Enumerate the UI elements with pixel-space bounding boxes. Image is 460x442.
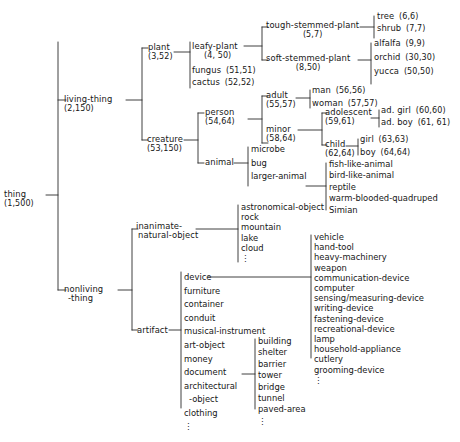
node-shrub[interactable]: shrub (7,7) bbox=[377, 24, 425, 33]
node-architectural-object-line2[interactable]: -object bbox=[184, 393, 265, 407]
node-yucca-index: (50,50) bbox=[404, 67, 434, 76]
node-man[interactable]: man (56,56) bbox=[312, 86, 366, 95]
node-astronomical-object[interactable]: astronomical-object bbox=[241, 202, 324, 212]
node-bird-like-animal[interactable]: bird-like-animal bbox=[329, 170, 438, 181]
node-fungus[interactable]: fungus (51,51) bbox=[192, 66, 256, 75]
node-device[interactable]: device bbox=[184, 271, 265, 285]
node-girl[interactable]: girl (63,63) bbox=[360, 135, 408, 144]
node-cutlery[interactable]: cutlery bbox=[314, 354, 424, 364]
node-ad-boy[interactable]: ad. boy (61, 61) bbox=[381, 118, 450, 127]
node-simian[interactable]: Simian bbox=[329, 205, 438, 216]
node-plant[interactable]: plant (3,52) bbox=[148, 43, 173, 61]
node-household-appliance[interactable]: household-appliance bbox=[314, 344, 424, 354]
node-reptile[interactable]: reptile bbox=[329, 182, 438, 193]
node-shelter[interactable]: shelter bbox=[258, 347, 306, 358]
artifact-children-list: device furniture container conduit music… bbox=[184, 271, 265, 431]
node-ad-girl[interactable]: ad. girl (60,60) bbox=[381, 106, 446, 115]
node-soft-stemmed-plant[interactable]: soft-stemmed-plant (8,50) bbox=[266, 54, 350, 72]
node-artifact-label: artifact bbox=[137, 326, 168, 335]
node-minor[interactable]: minor (58,64) bbox=[266, 125, 296, 143]
node-tough-stemmed-plant[interactable]: tough-stemmed-plant (5,7) bbox=[266, 21, 359, 39]
node-plant-index: (3,52) bbox=[148, 52, 173, 61]
node-inanimate-natural-object[interactable]: inanimate- natural-object bbox=[136, 222, 198, 240]
node-alfalfa[interactable]: alfalfa (9,9) bbox=[374, 39, 425, 48]
node-person-index: (54,64) bbox=[205, 117, 235, 126]
node-heavy-machinery[interactable]: heavy-machinery bbox=[314, 252, 424, 262]
node-leafy-plant-index: (4, 50) bbox=[192, 51, 238, 60]
node-sensing-measuring-device[interactable]: sensing/measuring-device bbox=[314, 293, 424, 303]
node-cactus[interactable]: cactus (52,52) bbox=[192, 78, 255, 87]
node-creature-index: (53,150) bbox=[147, 144, 183, 153]
node-warm-blooded-quadruped[interactable]: warm-blooded-quadruped bbox=[329, 193, 438, 204]
node-art-object[interactable]: art-object bbox=[184, 339, 265, 353]
node-alfalfa-index: (9,9) bbox=[405, 39, 424, 48]
node-fastening-device[interactable]: fastening-device bbox=[314, 314, 424, 324]
node-computer[interactable]: computer bbox=[314, 283, 424, 293]
node-tunnel[interactable]: tunnel bbox=[258, 393, 306, 404]
node-musical-instrument[interactable]: musical-instrument bbox=[184, 325, 265, 339]
larger-animal-children-list: fish-like-animal bird-like-animal reptil… bbox=[329, 159, 438, 216]
node-writing-device[interactable]: writing-device bbox=[314, 303, 424, 313]
node-man-index: (56,56) bbox=[336, 86, 366, 95]
node-minor-label: minor bbox=[266, 125, 296, 134]
node-barrier[interactable]: barrier bbox=[258, 359, 306, 370]
node-cactus-label: cactus bbox=[192, 77, 220, 87]
node-tree[interactable]: tree (6,6) bbox=[377, 12, 418, 21]
node-nonliving-thing[interactable]: nonliving -thing bbox=[64, 285, 103, 303]
device-ellipsis: ⋮ bbox=[314, 375, 424, 385]
node-living-thing-index: (2,150) bbox=[64, 104, 112, 113]
node-leafy-plant[interactable]: leafy-plant (4, 50) bbox=[192, 42, 238, 60]
node-artifact[interactable]: artifact bbox=[137, 326, 168, 335]
node-living-thing[interactable]: living-thing (2,150) bbox=[64, 95, 112, 113]
node-fungus-index: (51,51) bbox=[226, 66, 256, 75]
node-weapon[interactable]: weapon bbox=[314, 263, 424, 273]
node-living-thing-label: living-thing bbox=[64, 95, 112, 104]
node-boy-index: (64,64) bbox=[380, 148, 410, 157]
node-bug[interactable]: bug bbox=[251, 157, 307, 171]
node-money[interactable]: money bbox=[184, 353, 265, 367]
node-recreational-device[interactable]: recreational-device bbox=[314, 324, 424, 334]
node-grooming-device[interactable]: grooming-device bbox=[314, 365, 424, 375]
node-boy[interactable]: boy (64,64) bbox=[360, 148, 410, 157]
inanimate-children-list: astronomical-object rock mountain lake c… bbox=[241, 202, 324, 263]
node-creature[interactable]: creature (53,150) bbox=[147, 135, 183, 153]
node-microbe[interactable]: microbe bbox=[251, 143, 307, 157]
node-paved-area[interactable]: paved-area bbox=[258, 404, 306, 415]
node-cactus-index: (52,52) bbox=[225, 78, 255, 87]
node-mountain[interactable]: mountain bbox=[241, 222, 324, 232]
node-adolescent[interactable]: adolescent (59,61) bbox=[325, 108, 372, 126]
node-yucca[interactable]: yucca (50,50) bbox=[374, 67, 434, 76]
node-animal[interactable]: animal bbox=[205, 158, 234, 167]
node-adult[interactable]: adult (55,57) bbox=[266, 91, 296, 109]
node-architectural-object-line1[interactable]: architectural bbox=[184, 380, 265, 394]
node-lamp[interactable]: lamp bbox=[314, 334, 424, 344]
node-rock[interactable]: rock bbox=[241, 212, 324, 222]
node-ad-girl-label: ad. girl bbox=[381, 105, 411, 115]
node-communication-device[interactable]: communication-device bbox=[314, 273, 424, 283]
node-thing-index: (1,500) bbox=[4, 199, 34, 208]
node-leafy-plant-label: leafy-plant bbox=[192, 42, 238, 51]
node-container[interactable]: container bbox=[184, 298, 265, 312]
node-larger-animal[interactable]: larger-animal bbox=[251, 170, 307, 184]
node-man-label: man bbox=[312, 85, 331, 95]
node-clothing[interactable]: clothing bbox=[184, 407, 265, 421]
architectural-ellipsis: ⋮ bbox=[258, 416, 306, 426]
node-conduit[interactable]: conduit bbox=[184, 312, 265, 326]
node-tower[interactable]: tower bbox=[258, 370, 306, 381]
node-building[interactable]: building bbox=[258, 336, 306, 347]
node-vehicle[interactable]: vehicle bbox=[314, 232, 424, 242]
node-cloud[interactable]: cloud bbox=[241, 243, 324, 253]
node-bridge[interactable]: bridge bbox=[258, 382, 306, 393]
node-fish-like-animal[interactable]: fish-like-animal bbox=[329, 159, 438, 170]
node-person[interactable]: person (54,64) bbox=[205, 108, 235, 126]
node-hand-tool[interactable]: hand-tool bbox=[314, 242, 424, 252]
node-orchid[interactable]: orchid (30,30) bbox=[374, 53, 435, 62]
node-lake[interactable]: lake bbox=[241, 233, 324, 243]
node-girl-label: girl bbox=[360, 134, 374, 144]
node-thing[interactable]: thing (1,500) bbox=[4, 190, 34, 208]
node-furniture[interactable]: furniture bbox=[184, 285, 265, 299]
node-shrub-label: shrub bbox=[377, 23, 401, 33]
node-child[interactable]: child (62,64) bbox=[325, 140, 355, 158]
node-ad-boy-label: ad. boy bbox=[381, 117, 413, 127]
node-document[interactable]: document bbox=[184, 366, 265, 380]
